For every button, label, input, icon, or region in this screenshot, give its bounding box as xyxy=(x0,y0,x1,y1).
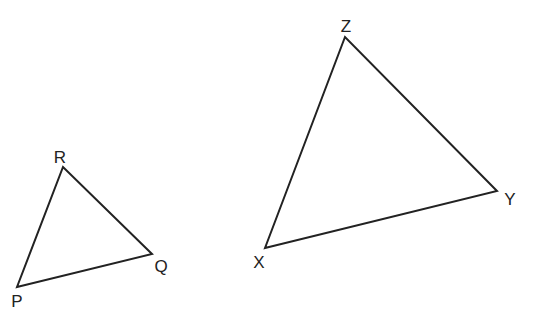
vertex-label-q: Q xyxy=(154,258,167,275)
vertex-label-r: R xyxy=(54,149,66,166)
triangle-xyz xyxy=(265,37,497,248)
triangles-canvas xyxy=(0,0,534,323)
triangle-pqr xyxy=(17,167,152,287)
vertex-label-z: Z xyxy=(341,18,351,35)
vertex-label-p: P xyxy=(11,293,22,310)
vertex-label-x: X xyxy=(253,254,264,271)
vertex-label-y: Y xyxy=(504,191,515,208)
